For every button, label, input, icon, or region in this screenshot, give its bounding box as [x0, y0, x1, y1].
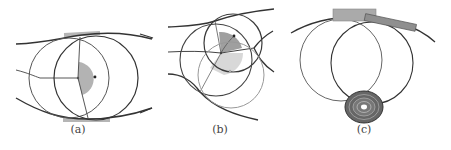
panel-a	[16, 31, 152, 122]
panel-b-right-curve-up	[254, 31, 273, 48]
panel-a-end-point	[94, 76, 97, 79]
panel-b-center-point	[220, 52, 222, 54]
panel-a-label: (a)	[58, 123, 98, 136]
panel-b-radius-2	[200, 53, 221, 92]
panel-c-label: (c)	[344, 123, 384, 136]
panel-c-disc	[345, 91, 383, 123]
panel-c	[291, 9, 435, 123]
panel-a-sector	[78, 62, 94, 95]
panel-a-center-point	[77, 77, 79, 79]
panel-c-rect-right	[364, 14, 416, 32]
panel-c-left-circle	[300, 19, 382, 101]
panel-b-dark-dot	[233, 35, 236, 38]
panel-b-light-dot	[229, 70, 231, 72]
panel-b-left-fragment-2	[140, 108, 152, 113]
panel-b	[140, 9, 274, 120]
panel-b-lower-curve	[168, 74, 258, 120]
panel-c-right-circle	[331, 22, 413, 104]
panel-a-top-curve	[16, 33, 152, 44]
panel-b-label: (b)	[200, 123, 240, 136]
